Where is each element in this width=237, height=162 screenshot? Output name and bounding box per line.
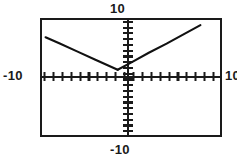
curve-left-branch [46, 37, 118, 69]
y-axis-max-label: 10 [110, 2, 125, 15]
curve-right-branch [118, 25, 201, 70]
graph-plot-area[interactable] [40, 18, 222, 137]
x-axis-min-label: -10 [3, 69, 23, 82]
x-axis-max-label: 10 [225, 69, 237, 82]
plotted-function-curve [42, 20, 220, 135]
y-axis-min-label: -10 [110, 143, 130, 156]
